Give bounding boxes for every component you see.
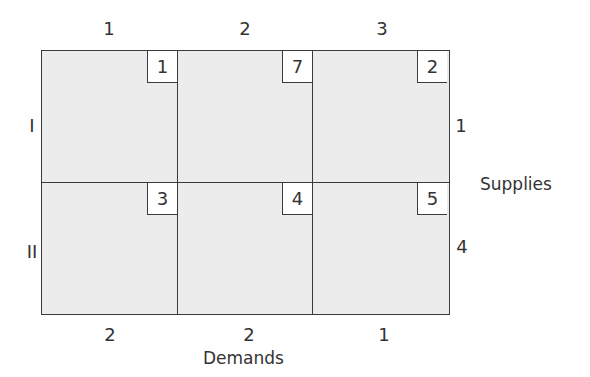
demands-label: Demands (203, 350, 284, 367)
demand-col-1: 2 (104, 326, 115, 344)
cost-cell-I-2: 7 (282, 51, 312, 83)
transportation-grid: 1 7 2 3 4 5 (41, 50, 450, 315)
cost-cell-II-1: 3 (147, 183, 177, 215)
column-header-3: 3 (376, 20, 387, 38)
row-header-I: I (29, 117, 34, 135)
cost-cell-II-2: 4 (282, 183, 312, 215)
row-header-II: II (27, 243, 38, 261)
supplies-label: Supplies (480, 176, 552, 193)
cost-cell-I-3: 2 (417, 51, 447, 83)
column-header-2: 2 (239, 20, 250, 38)
supply-row-II: 4 (456, 238, 467, 256)
column-header-1: 1 (103, 20, 114, 38)
demand-col-2: 2 (243, 326, 254, 344)
supply-row-I: 1 (455, 117, 466, 135)
cost-cell-I-1: 1 (147, 51, 177, 83)
demand-col-3: 1 (378, 326, 389, 344)
cost-cell-II-3: 5 (417, 183, 447, 215)
grid-divider-row (42, 182, 449, 183)
